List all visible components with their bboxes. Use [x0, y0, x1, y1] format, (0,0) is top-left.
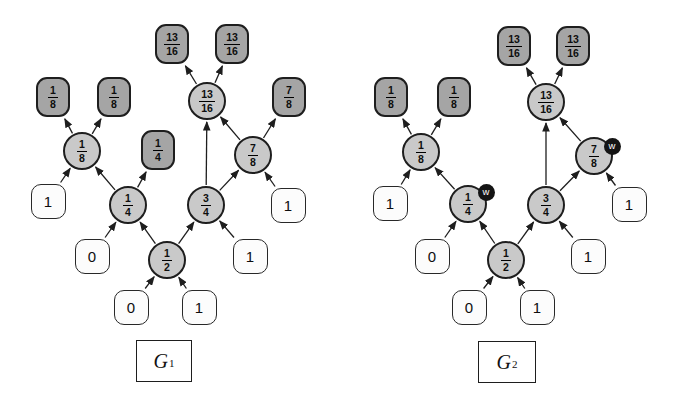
- fraction-numerator: 7: [589, 144, 599, 156]
- fraction-value: 12: [501, 248, 511, 273]
- fraction-denominator: 16: [224, 44, 240, 57]
- edge-G1-gate-7-8-to-out-7-8: [264, 119, 276, 138]
- input-node-G2-in-1-b: 1: [520, 290, 555, 325]
- fraction-numerator: 1: [416, 140, 426, 152]
- input-value: 1: [625, 196, 633, 213]
- input-value: 1: [44, 193, 52, 210]
- fraction-denominator: 8: [77, 151, 87, 164]
- input-value: 0: [88, 248, 96, 265]
- output-node-G2-out-1-8-b: 18: [437, 77, 471, 117]
- fraction-denominator: 8: [449, 97, 459, 110]
- edge-G1-gate-7-8-to-gate-13-16: [221, 117, 240, 140]
- fraction-value: 1316: [199, 89, 215, 114]
- gate-node-G1-gate-7-8: 78: [234, 136, 272, 174]
- fraction-value: 14: [123, 193, 133, 218]
- fraction-numerator: 1: [501, 248, 511, 260]
- fraction-denominator: 16: [199, 101, 215, 114]
- two-circuit-graphs-figure: G1 G2 1818131613161478181316781434121001…: [0, 0, 676, 404]
- input-node-G2-in-1-a: 1: [373, 186, 408, 221]
- output-node-G1-out-1-8-a: 18: [36, 77, 70, 117]
- edge-G2-gate-1-8-to-out-1-8-b: [431, 119, 441, 135]
- fraction-numerator: 13: [538, 90, 554, 102]
- gate-node-G2-gate-13-16: 1316: [527, 83, 565, 121]
- gate-node-G2-gate-3-4: 34: [527, 186, 565, 224]
- fraction-numerator: 13: [506, 34, 522, 46]
- graph-label-G2-subscript: 2: [512, 358, 518, 370]
- fraction-denominator: 16: [565, 46, 581, 59]
- edge-G1-in-1-d-to-gate-7-8: [265, 172, 275, 186]
- w-badge: w: [478, 184, 495, 201]
- gate-node-G1-gate-1-2: 12: [148, 241, 186, 279]
- fraction-denominator: 4: [153, 150, 163, 163]
- output-node-G2-out-13-16-b: 1316: [556, 26, 590, 66]
- fraction-value: 14: [463, 192, 473, 217]
- edge-G2-in-1-a-to-gate-1-8: [401, 170, 410, 185]
- input-value: 0: [465, 299, 473, 316]
- fraction-value: 1316: [506, 34, 522, 59]
- fraction-value: 18: [109, 85, 119, 110]
- input-node-G1-in-1-c: 1: [233, 239, 268, 274]
- fraction-value: 78: [248, 143, 258, 168]
- input-value: 1: [195, 299, 203, 316]
- fraction-value: 1316: [164, 32, 180, 57]
- edge-G1-in-1-b-to-gate-1-2: [179, 277, 187, 288]
- edge-G1-gate-1-2-to-gate-1-4: [140, 222, 155, 244]
- edge-G1-gate-1-4-to-out-1-4: [138, 172, 147, 188]
- edge-G2-gate-3-4-to-gate-7-8: [560, 171, 579, 191]
- edge-G1-gate-1-2-to-gate-3-4: [179, 222, 194, 244]
- edge-G2-in-0-b-to-gate-1-2: [484, 277, 493, 289]
- fraction-denominator: 2: [501, 260, 511, 273]
- edge-G2-gate-13-16-to-out-13-16-b: [555, 68, 563, 84]
- graph-label-G2-text: G: [497, 351, 511, 374]
- edge-G1-in-0-a-to-gate-1-4: [105, 222, 116, 237]
- output-node-G1-out-1-4: 14: [141, 130, 175, 170]
- fraction-value: 34: [541, 193, 551, 218]
- fraction-value: 12: [162, 248, 172, 273]
- fraction-numerator: 1: [109, 85, 119, 97]
- edge-G1-gate-3-4-to-gate-13-16: [206, 122, 207, 185]
- fraction-numerator: 1: [123, 193, 133, 205]
- fraction-denominator: 16: [538, 102, 554, 115]
- output-node-G2-out-13-16-a: 1316: [497, 26, 531, 66]
- input-node-G2-in-0-b: 0: [452, 290, 487, 325]
- fraction-denominator: 4: [123, 205, 133, 218]
- edge-G1-gate-1-8-to-out-1-8-a: [65, 119, 73, 133]
- fraction-denominator: 4: [541, 205, 551, 218]
- output-node-G1-out-1-8-b: 18: [97, 77, 131, 117]
- fraction-value: 34: [201, 193, 211, 218]
- fraction-value: 78: [284, 85, 294, 110]
- fraction-denominator: 16: [506, 46, 522, 59]
- fraction-numerator: 1: [162, 248, 172, 260]
- fraction-numerator: 13: [224, 32, 240, 44]
- edge-G2-gate-1-8-to-out-1-8-a: [403, 119, 412, 134]
- gate-node-G2-gate-1-2: 12: [487, 241, 525, 279]
- input-node-G1-in-0-b: 0: [114, 290, 149, 325]
- fraction-denominator: 4: [463, 204, 473, 217]
- fraction-value: 1316: [224, 32, 240, 57]
- fraction-denominator: 8: [589, 156, 599, 169]
- fraction-denominator: 8: [386, 97, 396, 110]
- input-value: 1: [386, 195, 394, 212]
- fraction-denominator: 16: [164, 44, 180, 57]
- fraction-value: 14: [153, 138, 163, 163]
- fraction-value: 1316: [538, 90, 554, 115]
- input-node-G1-in-0-a: 0: [75, 239, 110, 274]
- output-node-G1-out-13-16-a: 1316: [155, 24, 189, 64]
- fraction-value: 18: [416, 140, 426, 165]
- edge-G1-gate-13-16-to-out-13-16-a: [185, 66, 196, 84]
- output-node-G1-out-7-8: 78: [272, 77, 306, 117]
- edge-G1-in-1-a-to-gate-1-8: [61, 168, 71, 182]
- input-value: 1: [246, 248, 254, 265]
- output-node-G1-out-13-16-b: 1316: [215, 24, 249, 64]
- fraction-numerator: 1: [386, 85, 396, 97]
- edge-G2-in-1-c-to-gate-3-4: [559, 221, 573, 237]
- edge-G2-gate-1-4-to-gate-1-8: [435, 168, 455, 190]
- fraction-value: 1316: [565, 34, 581, 59]
- graph-label-G1-text: G: [154, 350, 168, 373]
- edge-G2-gate-7-8-to-gate-13-16: [560, 118, 581, 141]
- fraction-denominator: 2: [162, 260, 172, 273]
- edge-G1-gate-1-8-to-out-1-8-b: [92, 119, 101, 134]
- fraction-value: 18: [48, 85, 58, 110]
- input-node-G1-in-1-b: 1: [182, 290, 217, 325]
- fraction-numerator: 1: [463, 192, 473, 204]
